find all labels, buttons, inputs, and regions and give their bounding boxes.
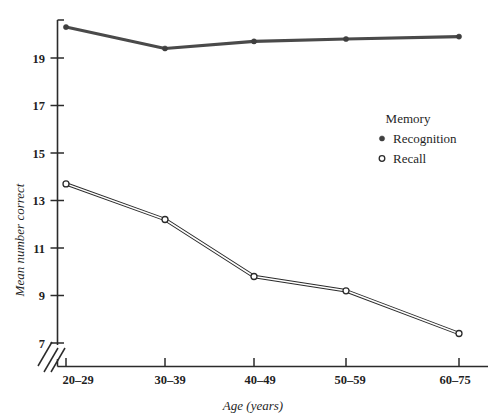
y-tick-label-13: 13 — [33, 194, 46, 208]
y-tick-labels: 19 17 15 13 11 9 7 — [33, 52, 46, 351]
recall-point — [456, 331, 462, 337]
x-tick-label-60-75: 60–75 — [439, 373, 470, 387]
x-tick-label-50-59: 50–59 — [334, 373, 365, 387]
legend-label-recall: Recall — [393, 151, 427, 166]
x-tick-label-20-29: 20–29 — [62, 373, 93, 387]
recognition-point — [251, 39, 256, 44]
series-recall — [63, 181, 462, 337]
legend-title: Memory — [386, 111, 431, 126]
recognition-point — [162, 46, 167, 51]
recall-point — [63, 181, 69, 187]
y-axis: 19 17 15 13 11 9 7 Mean number correct — [12, 20, 64, 351]
recognition-point — [343, 36, 348, 41]
y-tick-label-7: 7 — [39, 337, 45, 351]
y-tick-label-15: 15 — [33, 147, 46, 161]
x-axis-title: Age (years) — [222, 398, 283, 413]
recognition-point — [456, 34, 461, 39]
recall-point — [162, 217, 168, 223]
filled-circle-icon — [379, 136, 384, 141]
y-tick-label-17: 17 — [33, 99, 46, 113]
recall-point — [343, 288, 349, 294]
x-tick-group — [66, 358, 459, 367]
y-tick-label-19: 19 — [33, 52, 46, 66]
y-tick-label-11: 11 — [33, 242, 45, 256]
recall-point — [251, 274, 257, 280]
legend-item-recall[interactable]: Recall — [379, 151, 426, 166]
y-tick-label-9: 9 — [39, 289, 45, 303]
x-tick-labels: 20–29 30–39 40–49 50–59 60–75 — [62, 373, 470, 387]
line-chart-figure: 19 17 15 13 11 9 7 Mean number correct — [0, 0, 491, 420]
open-circle-icon — [379, 156, 385, 162]
legend-item-recognition[interactable]: Recognition — [379, 131, 457, 146]
legend: Memory Recognition Recall — [379, 111, 457, 166]
x-tick-label-40-49: 40–49 — [244, 373, 275, 387]
recognition-point — [63, 25, 68, 30]
x-axis: 20–29 30–39 40–49 50–59 60–75 Age (years… — [58, 358, 489, 413]
x-tick-label-30-39: 30–39 — [154, 373, 185, 387]
y-axis-title: Mean number correct — [12, 183, 27, 297]
chart-canvas: 19 17 15 13 11 9 7 Mean number correct — [0, 0, 491, 420]
legend-label-recognition: Recognition — [393, 131, 457, 146]
recognition-line — [66, 27, 459, 48]
series-recognition — [63, 25, 461, 52]
